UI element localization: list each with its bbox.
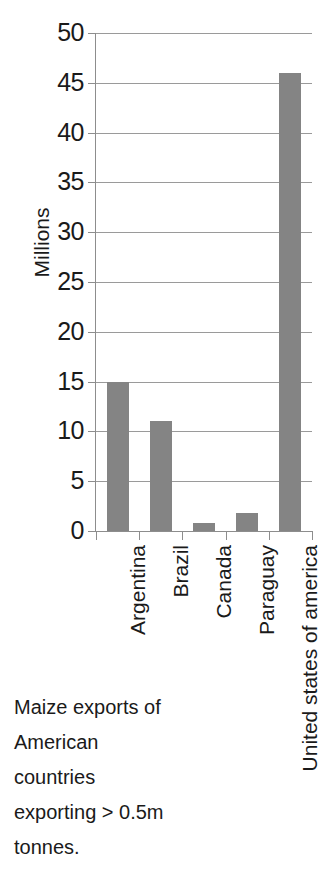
x-axis-tick xyxy=(139,531,140,540)
y-axis-tick-label: 10 xyxy=(32,418,84,443)
x-axis-tick xyxy=(182,531,183,540)
caption-line: American xyxy=(14,725,274,760)
y-axis-tick xyxy=(88,481,96,482)
bar xyxy=(193,523,215,531)
y-axis-tick xyxy=(88,282,96,283)
bar xyxy=(107,382,129,531)
y-axis-tick xyxy=(88,232,96,233)
y-axis-tick xyxy=(88,531,96,532)
bar xyxy=(150,421,172,531)
y-axis-tick xyxy=(88,431,96,432)
bar xyxy=(236,513,258,531)
bar xyxy=(279,73,301,531)
x-axis-line xyxy=(96,531,313,532)
x-axis-tick xyxy=(96,531,97,540)
y-axis-tick-labels: 50454035302520151050 xyxy=(32,0,84,560)
caption-line: Maize exports of xyxy=(14,690,274,725)
caption-line: countries xyxy=(14,760,274,795)
y-axis-tick-label: 20 xyxy=(32,319,84,344)
y-axis-tick xyxy=(88,182,96,183)
y-axis-tick xyxy=(88,332,96,333)
bar-chart-figure: Millions 50454035302520151050 ArgentinaB… xyxy=(0,0,322,690)
y-axis-tick-label: 50 xyxy=(32,20,84,45)
y-axis-tick xyxy=(88,33,96,34)
y-axis-tick-label: 35 xyxy=(32,169,84,194)
gridline xyxy=(96,33,312,34)
y-axis-tick-label: 45 xyxy=(32,70,84,95)
x-axis-tick xyxy=(226,531,227,540)
x-axis-category-label: Paraguay xyxy=(256,545,277,635)
y-axis-tick-label: 0 xyxy=(32,518,84,543)
caption-line: exporting > 0.5m xyxy=(14,795,274,830)
y-axis-tick-label: 5 xyxy=(32,468,84,493)
x-axis-tick xyxy=(312,531,313,540)
y-axis-tick xyxy=(88,382,96,383)
figure-caption: Maize exports ofAmericancountriesexporti… xyxy=(14,690,274,865)
y-axis-tick-label: 25 xyxy=(32,269,84,294)
y-axis-tick-label: 30 xyxy=(32,219,84,244)
y-axis-tick-label: 15 xyxy=(32,369,84,394)
y-axis-tick-label: 40 xyxy=(32,120,84,145)
y-axis-tick xyxy=(88,133,96,134)
x-axis-tick xyxy=(269,531,270,540)
x-axis-category-label: Brazil xyxy=(170,545,191,598)
x-axis-category-label: Canada xyxy=(213,545,234,619)
caption-line: tonnes. xyxy=(14,830,274,865)
x-axis-category-label: United states of america xyxy=(299,545,320,771)
plot-area xyxy=(96,33,312,531)
x-axis-category-label: Argentina xyxy=(127,545,148,635)
y-axis-tick xyxy=(88,83,96,84)
